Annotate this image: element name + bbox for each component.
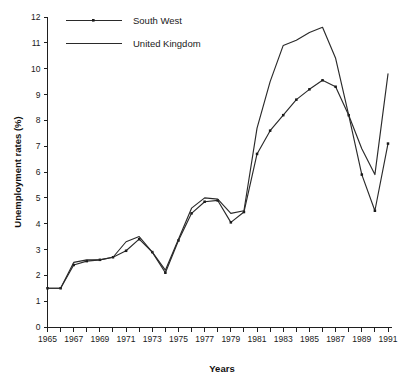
y-tick-label: 12	[31, 12, 41, 22]
x-tick-label: 1987	[326, 334, 345, 344]
data-point-marker	[164, 272, 167, 275]
chart-legend: South West United Kingdom	[66, 15, 201, 49]
x-axis-title: Years	[209, 363, 234, 374]
data-point-marker	[321, 79, 324, 82]
y-tick-label: 7	[36, 141, 41, 151]
data-point-marker	[190, 212, 193, 215]
series-path	[48, 80, 389, 288]
data-point-marker	[387, 142, 390, 145]
data-point-marker	[203, 200, 206, 203]
y-tick-label: 11	[32, 38, 41, 48]
y-tick-label: 0	[36, 322, 41, 332]
data-point-marker	[282, 114, 285, 117]
x-tick-label: 1973	[143, 334, 162, 344]
x-tick-label: 1985	[300, 334, 319, 344]
chart-canvas: 0123456789101112 19651967196919711973197…	[0, 0, 403, 383]
x-tick-label: 1967	[64, 334, 83, 344]
x-tick-label: 1991	[379, 334, 398, 344]
x-axis-tick-labels: 1965196719691971197319751977197919811983…	[38, 334, 398, 344]
y-tick-label: 9	[36, 90, 41, 100]
series-united-kingdom	[48, 27, 389, 288]
data-point-marker	[269, 129, 272, 132]
x-tick-label: 1971	[117, 334, 136, 344]
x-tick-label: 1977	[195, 334, 214, 344]
y-axis-title: Unemployment rates (%)	[12, 116, 23, 227]
legend-label-united-kingdom: United Kingdom	[133, 38, 201, 49]
x-tick-label: 1965	[38, 334, 57, 344]
legend-marker-south-west	[92, 19, 95, 22]
y-axis-tick-labels: 0123456789101112	[31, 12, 41, 332]
data-point-marker	[374, 210, 377, 213]
y-axis-ticks	[44, 17, 48, 327]
data-point-marker	[256, 153, 258, 156]
y-tick-label: 8	[36, 115, 41, 125]
x-tick-label: 1975	[169, 334, 188, 344]
data-point-marker	[295, 98, 298, 101]
unemployment-rates-line-chart: 0123456789101112 19651967196919711973197…	[0, 0, 403, 383]
data-point-marker	[308, 88, 311, 91]
y-tick-label: 1	[36, 296, 41, 306]
series-south-west	[46, 79, 389, 289]
y-tick-label: 10	[31, 64, 41, 74]
x-tick-label: 1989	[352, 334, 371, 344]
y-tick-label: 3	[36, 245, 41, 255]
data-point-marker	[125, 250, 128, 253]
x-tick-label: 1983	[274, 334, 293, 344]
y-tick-label: 2	[36, 270, 41, 280]
x-tick-label: 1979	[221, 334, 240, 344]
y-tick-label: 6	[36, 167, 41, 177]
series-path	[48, 27, 389, 288]
data-point-marker	[230, 221, 233, 224]
x-tick-label: 1981	[248, 334, 267, 344]
legend-label-south-west: South West	[133, 15, 182, 26]
data-point-marker	[361, 173, 364, 176]
y-tick-label: 5	[36, 193, 41, 203]
x-tick-label: 1969	[90, 334, 109, 344]
series-layer	[46, 27, 389, 289]
data-point-marker	[334, 86, 337, 89]
y-tick-label: 4	[36, 219, 41, 229]
